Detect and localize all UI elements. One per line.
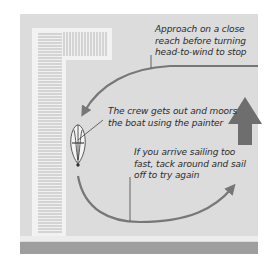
retry-caption: If you arrive sailing too fast, tack aro…: [134, 147, 246, 182]
moor-caption: The crew gets out and moors the boat usi…: [108, 106, 237, 129]
shore-band-light: [20, 236, 258, 241]
approach-caption: Approach on a close reach before turning…: [155, 24, 246, 59]
sailing-diagram: Approach on a close reach before turning…: [0, 0, 277, 269]
shore-band: [20, 242, 258, 254]
